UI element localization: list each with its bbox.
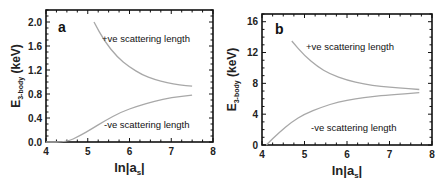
x-tick-label: 5	[302, 149, 308, 160]
x-tick-label: 7	[387, 149, 393, 160]
negative-scattering-curve	[266, 93, 419, 145]
positive-scattering-curve	[94, 22, 192, 86]
panel-label: a	[58, 19, 66, 35]
positive-scattering-label: +ve scattering length	[102, 33, 190, 44]
negative-scattering-label: -ve scattering length	[104, 119, 190, 130]
y-tick-label: 8	[252, 78, 258, 89]
chart-panel-b: 456780481216b+ve scattering length-ve sc…	[225, 14, 435, 180]
y-tick-label: 1.6	[28, 41, 42, 52]
x-axis-label: ln|as|	[332, 163, 363, 180]
y-tick-label: 0	[252, 140, 258, 151]
x-axis-label: ln|as|	[114, 160, 145, 177]
y-tick-label: 0.4	[28, 113, 42, 124]
x-tick-label: 6	[127, 146, 133, 157]
x-tick-label: 6	[344, 149, 350, 160]
x-tick-label: 8	[210, 146, 216, 157]
x-tick-label: 4	[43, 146, 49, 157]
y-axis-label: E3-body (keV)	[9, 44, 25, 108]
positive-scattering-label: +ve scattering length	[306, 41, 394, 52]
y-tick-label: 1.2	[28, 65, 42, 76]
x-tick-label: 4	[259, 149, 265, 160]
y-axis-label: E3-body (keV)	[225, 48, 241, 112]
y-tick-label: 2.0	[28, 17, 42, 28]
y-tick-label: 4	[252, 109, 258, 120]
x-tick-label: 8	[429, 149, 435, 160]
y-tick-label: 0.0	[28, 137, 42, 148]
x-tick-label: 5	[85, 146, 91, 157]
y-tick-label: 12	[247, 47, 259, 58]
y-tick-label: 16	[247, 16, 259, 27]
figure: 456780.00.40.81.21.62.0a+ve scattering l…	[0, 0, 443, 189]
x-tick-label: 7	[168, 146, 174, 157]
negative-scattering-label: -ve scattering length	[311, 122, 397, 133]
panel-label: b	[275, 21, 284, 37]
chart-panel-a: 456780.00.40.81.21.62.0a+ve scattering l…	[9, 10, 216, 177]
y-tick-label: 0.8	[28, 89, 42, 100]
